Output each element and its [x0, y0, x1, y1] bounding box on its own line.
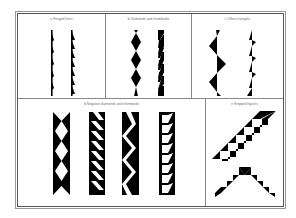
panel-e-stepped-figures: e Stepped figures: [206, 99, 283, 206]
negative-diamonds-rhomboids-motif: [18, 99, 206, 206]
panel-d-negative-diamonds: d Negative diamonds and rhomboids: [18, 99, 206, 206]
panel-a-fringed-lines: a Fringed lines: [18, 14, 106, 99]
panel-b-diamonds-rhomboids: b Diamonds and rhomboids: [106, 14, 192, 99]
diamonds-rhomboids-motif: [106, 14, 192, 99]
stepped-figures-motif: [206, 99, 283, 206]
panel-c-offset-triangles: c Offset triangles: [192, 14, 283, 99]
offset-triangles-motif: [192, 14, 283, 99]
fringed-lines-motif: [18, 14, 106, 99]
